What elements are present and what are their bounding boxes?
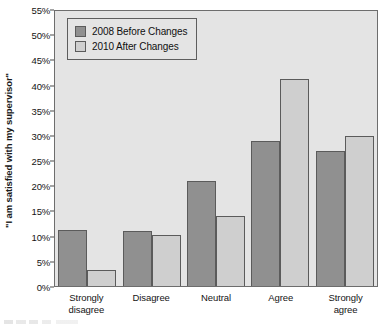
bar[interactable]	[280, 79, 309, 287]
x-tick-label: Neutral	[184, 292, 249, 315]
x-tick-label: Stronglyagree	[313, 292, 378, 315]
bar[interactable]	[316, 151, 345, 286]
bar[interactable]	[58, 230, 87, 286]
x-tick-label-line1: Agree	[268, 292, 293, 303]
legend-item-label: 2010 After Changes	[92, 41, 179, 52]
legend-item-label: 2008 Before Changes	[92, 26, 187, 37]
y-axis-title-text: "I am satisfied with my supervisor"	[3, 73, 14, 228]
x-tick-label: Stronglydisagree	[54, 292, 119, 315]
bar[interactable]	[123, 231, 152, 286]
x-tick-label: Disagree	[119, 292, 184, 315]
legend-item[interactable]: 2010 After Changes	[75, 39, 187, 54]
y-tick-label: 50%	[18, 30, 50, 41]
y-tick-label: 15%	[18, 206, 50, 217]
legend-swatch-icon	[75, 26, 86, 37]
y-tick-label: 40%	[18, 80, 50, 91]
x-tick-label-line2: agree	[313, 304, 378, 316]
bar[interactable]	[87, 270, 116, 287]
y-tick-label: 10%	[18, 231, 50, 242]
bar[interactable]	[187, 181, 216, 286]
x-tick-label: Agree	[248, 292, 313, 315]
y-tick-label: 35%	[18, 105, 50, 116]
x-axis-labels: StronglydisagreeDisagreeNeutralAgreeStro…	[54, 292, 378, 315]
chart-legend: 2008 Before Changes2010 After Changes	[67, 18, 197, 60]
y-axis-ticks: 0%5%10%15%20%25%30%35%40%45%50%55%	[14, 0, 50, 292]
x-tick-label-line2: disagree	[54, 304, 119, 316]
bar-chart-figure: "I am satisfied with my supervisor" 0%5%…	[0, 0, 387, 330]
legend-swatch-icon	[75, 41, 86, 52]
plot-area: 2008 Before Changes2010 After Changes	[54, 10, 378, 287]
x-tick-label-line1: Strongly	[329, 292, 363, 303]
bar-group	[248, 11, 312, 286]
caption-artifact	[4, 320, 78, 324]
bar[interactable]	[152, 235, 181, 287]
y-tick-label: 5%	[18, 256, 50, 267]
bar[interactable]	[216, 216, 245, 286]
x-tick-label-line1: Strongly	[69, 292, 103, 303]
bar[interactable]	[251, 141, 280, 286]
x-tick-label-line1: Neutral	[201, 292, 231, 303]
x-tick-label-line1: Disagree	[133, 292, 170, 303]
bar[interactable]	[345, 136, 374, 286]
y-tick-label: 30%	[18, 130, 50, 141]
bar-group	[313, 11, 377, 286]
y-tick-label: 0%	[18, 282, 50, 293]
y-tick-label: 45%	[18, 55, 50, 66]
y-tick-label: 20%	[18, 181, 50, 192]
y-tick-label: 25%	[18, 156, 50, 167]
legend-item[interactable]: 2008 Before Changes	[75, 24, 187, 39]
y-tick-label: 55%	[18, 5, 50, 16]
